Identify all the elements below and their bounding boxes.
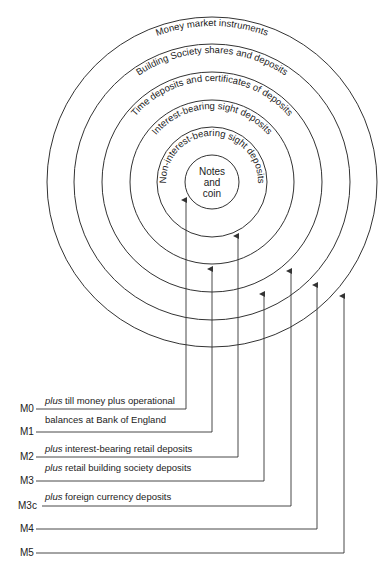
aggregate-label-m3: M3 — [20, 475, 34, 486]
core-label-line: coin — [203, 188, 221, 199]
note-m2-below: plus retail building society deposits — [44, 462, 192, 473]
core-label-notes-and-coin: Notes and coin — [199, 166, 225, 199]
aggregate-label-m0: M0 — [20, 403, 34, 414]
ring-label-text: Money market instruments — [154, 17, 270, 38]
note-m3c-above: plus foreign currency deposits — [44, 491, 171, 502]
note-m0-below: balances at Bank of England — [45, 414, 166, 425]
aggregate-label-m3c: M3c — [18, 500, 37, 511]
connector-m0 — [36, 200, 186, 409]
core-label-line: and — [204, 177, 221, 188]
svg-text:Time deposits and certificates: Time deposits and certificates of deposi… — [129, 72, 296, 118]
ring-label-money-market: Money market instruments — [154, 17, 270, 38]
aggregate-label-m1: M1 — [20, 426, 34, 437]
aggregate-label-m2: M2 — [20, 451, 34, 462]
aggregate-label-m5: M5 — [20, 547, 34, 558]
note-m2-above: plus interest-bearing retail deposits — [44, 443, 193, 454]
core-label-line: Notes — [199, 166, 225, 177]
note-m0-above: plus till money plus operational — [44, 395, 175, 406]
money-supply-diagram: Non-interest-bearing sight deposits Inte… — [0, 0, 389, 576]
aggregate-notes: plus till money plus operational balance… — [44, 395, 193, 502]
svg-text:Money market instruments: Money market instruments — [154, 17, 270, 38]
ring-label-time-deposits: Time deposits and certificates of deposi… — [129, 72, 296, 118]
ring-label-text: Time deposits and certificates of deposi… — [129, 72, 296, 118]
aggregate-labels: M0 M1 M2 M3 M3c M4 M5 — [18, 403, 37, 558]
aggregate-label-m4: M4 — [20, 523, 34, 534]
